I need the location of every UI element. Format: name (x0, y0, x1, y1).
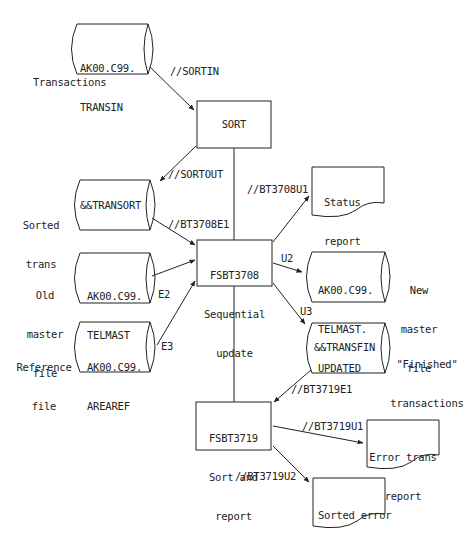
caption-line: Old (20, 289, 70, 302)
caption-line: New (396, 284, 442, 297)
connector-sortout: //SORTOUT (168, 168, 223, 181)
connector-bt3719u2: //BT3719U2 (235, 470, 296, 483)
dataset-edge-transort (150, 180, 155, 230)
process-line: FSBT3719 (196, 432, 271, 445)
connector-bt3719u1: //BT3719U1 (302, 420, 363, 433)
dataset-name: AK00.C99. (87, 361, 142, 374)
dataset-edge-telmast-updated (385, 252, 390, 302)
report-line: Status (324, 196, 361, 209)
dataset-transfin: &&TRANSFIN (314, 341, 375, 354)
connector-u3: U3 (300, 305, 312, 318)
process-line: update (197, 347, 272, 360)
connector-e3: E3 (161, 340, 173, 353)
report-line: Sorted error (318, 509, 391, 522)
connector-bt3719e1: //BT3719E1 (291, 383, 352, 396)
caption-line: file (14, 400, 74, 413)
caption-reference-file: Reference file (14, 335, 74, 426)
caption-finished-transactions: "Finished" transactions (385, 332, 469, 423)
dataset-name: UPDATED (318, 362, 373, 375)
connector-bt3708e1: //BT3708E1 (168, 218, 229, 231)
dataset-edge-transin (148, 24, 153, 74)
dataset-name: AK00.C99. (87, 290, 142, 303)
arrow-bt3708u1 (273, 196, 309, 242)
connector-e2: E2 (158, 288, 170, 301)
report-line: report (324, 235, 361, 248)
dataset-name: AREAREF (87, 400, 142, 413)
process-sort-label: SORT (197, 118, 271, 131)
caption-transactions: Transactions (33, 76, 106, 89)
dataset-telmast-updated: AK00.C99. TELMAST. UPDATED (318, 258, 373, 388)
connector-u2: U2 (281, 252, 293, 265)
process-line: FSBT3708 (197, 269, 272, 282)
dataset-edge-arearef (150, 322, 155, 372)
dataset-arearef: AK00.C99. AREAREF (87, 335, 142, 426)
dataset-edge-telmast (150, 253, 155, 303)
process-fsbt3708-label: FSBT3708 Sequential update (197, 243, 272, 373)
process-line: Sequential (197, 308, 272, 321)
connector-bt3708u1: //BT3708U1 (247, 183, 308, 196)
dataset-name: TRANSIN (80, 101, 135, 114)
connector-sortin: //SORTIN (170, 65, 219, 78)
dataset-name: AK00.C99. (80, 62, 135, 75)
arrow-e2 (152, 260, 195, 276)
dataset-transort: &&TRANSORT (80, 199, 141, 212)
dataset-name: TELMAST. (318, 323, 373, 336)
process-line: report (196, 510, 271, 523)
report-sorted-error-label: Sorted error trans report (318, 483, 391, 541)
caption-line: Sorted (20, 219, 62, 232)
caption-line: Reference (14, 361, 74, 374)
report-line: Error trans (367, 451, 439, 464)
dataset-name: AK00.C99. (318, 284, 373, 297)
caption-line: "Finished" (385, 358, 469, 371)
report-status-label: Status report (324, 170, 361, 261)
caption-line: transactions (385, 397, 469, 410)
